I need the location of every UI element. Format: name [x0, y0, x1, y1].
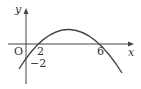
x-axis-label: x: [128, 47, 134, 58]
tick-label-x-2: 2: [37, 46, 44, 57]
tick-label-x-6: 6: [97, 46, 104, 57]
tick-label-y-neg2: −2: [30, 58, 46, 69]
y-axis-arrow-icon: [24, 8, 29, 14]
parabola-diagram: y x O 2 6 −2: [0, 0, 141, 89]
origin-label: O: [14, 46, 23, 57]
y-axis-label: y: [15, 4, 21, 15]
